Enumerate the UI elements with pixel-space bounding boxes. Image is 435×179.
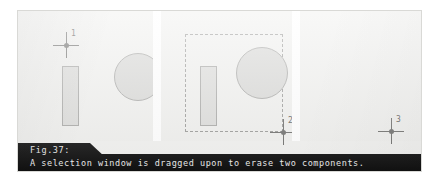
caption-zone: Fig.37: A selection window is dragged up…	[18, 139, 422, 171]
panel-divider-2	[292, 11, 300, 141]
panel-step-1: 1	[18, 11, 153, 141]
component-circle[interactable]	[236, 47, 288, 99]
crosshair-step-label-3: 3	[396, 116, 401, 124]
figure-caption-text: A selection window is dragged upon to er…	[30, 157, 364, 169]
figure-root: 1 2 3	[0, 0, 435, 179]
component-rectangle[interactable]	[62, 66, 79, 126]
panel-divider-1	[153, 11, 161, 141]
component-rectangle[interactable]	[200, 66, 217, 126]
figure-number-label: Fig.37:	[30, 145, 70, 156]
crosshair-center-hub	[64, 43, 69, 48]
figure-plate: 1 2 3	[17, 10, 422, 172]
panel-strip: 1 2 3	[18, 11, 422, 141]
panel-step-2: 2	[161, 11, 292, 141]
panel-step-3: 3	[300, 11, 422, 141]
crosshair-center-hub	[281, 130, 286, 135]
crosshair-center-hub	[389, 129, 394, 134]
crosshair-step-label-1: 1	[71, 30, 76, 38]
